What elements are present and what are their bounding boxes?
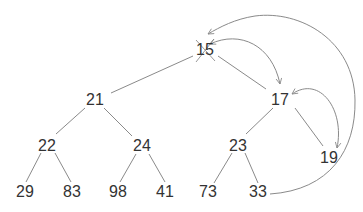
edge-15-17 (218, 56, 266, 89)
edge-24-41 (149, 154, 165, 182)
node-41: 41 (156, 184, 174, 200)
node-98: 98 (109, 184, 127, 200)
node-21: 21 (86, 92, 104, 108)
edge-24-98 (120, 154, 136, 182)
edge-15-21 (111, 56, 193, 93)
node-33: 33 (249, 184, 267, 200)
node-15: 15 (196, 42, 214, 58)
node-22: 22 (38, 138, 56, 154)
edge-21-22 (56, 108, 85, 134)
node-24: 24 (133, 138, 151, 154)
edge-17-19 (295, 108, 323, 146)
node-17: 17 (271, 92, 289, 108)
node-23: 23 (229, 138, 247, 154)
node-83: 83 (63, 184, 81, 200)
tree-edges (26, 56, 323, 183)
edge-17-23 (246, 108, 273, 134)
heap-diagram (0, 0, 363, 212)
edge-22-83 (55, 153, 71, 182)
edge-22-29 (26, 153, 41, 182)
edge-23-33 (245, 153, 258, 183)
node-19: 19 (320, 150, 338, 166)
edge-21-24 (104, 108, 132, 136)
arrow-15-17-swap (210, 39, 280, 84)
node-73: 73 (199, 184, 217, 200)
arrow-17-19-swap (292, 89, 339, 148)
node-29: 29 (16, 184, 34, 200)
edge-23-73 (214, 153, 232, 183)
